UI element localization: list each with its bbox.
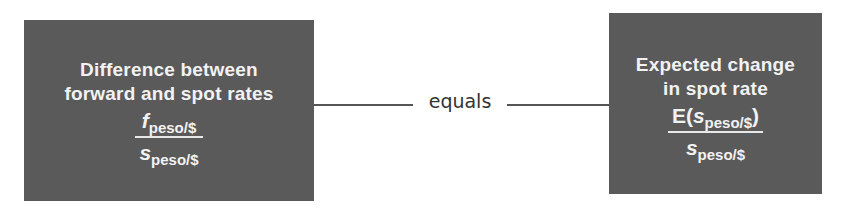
right-denominator: speso/$ — [668, 135, 763, 160]
right-title-line1: Expected change — [609, 53, 822, 77]
left-box-title: Difference between forward and spot rate… — [24, 20, 314, 106]
expected-change-box: Expected change in spot rate E(speso/$) … — [609, 13, 822, 194]
left-title-line1: Difference between — [24, 58, 314, 82]
left-denominator: speso/$ — [135, 140, 202, 165]
connector-line-left — [314, 104, 413, 106]
right-numerator: E(speso/$) — [668, 103, 763, 128]
left-fraction: fpeso/$ speso/$ — [135, 108, 202, 165]
left-numerator: fpeso/$ — [135, 108, 202, 133]
connector-line-right — [507, 104, 609, 106]
right-fraction: E(speso/$) speso/$ — [668, 103, 763, 160]
right-title-line2: in spot rate — [609, 77, 822, 101]
equals-label: equals — [413, 90, 507, 112]
left-fraction-bar — [135, 136, 202, 138]
forward-spot-difference-box: Difference between forward and spot rate… — [24, 20, 314, 201]
right-fraction-bar — [668, 131, 763, 133]
left-title-line2: forward and spot rates — [24, 82, 314, 106]
right-box-title: Expected change in spot rate — [609, 13, 822, 101]
